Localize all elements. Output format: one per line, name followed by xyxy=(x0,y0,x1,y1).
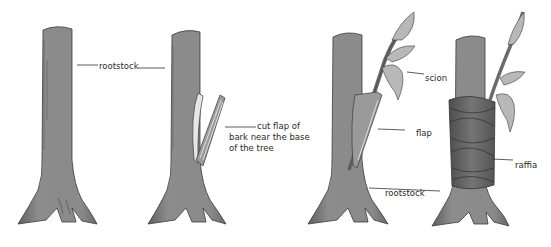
tree-4-raffia-wrapped xyxy=(432,12,525,226)
label-rootstock-bottom: rootstock xyxy=(385,188,425,199)
label-cut-flap: cut flap of bark near the base of the tr… xyxy=(257,121,357,154)
label-scion: scion xyxy=(425,73,447,84)
leader-scion xyxy=(407,72,424,74)
label-rootstock-top: rootstock xyxy=(99,61,139,72)
label-cut-flap-line2: bark near the base xyxy=(229,132,357,143)
label-cut-flap-line1: cut flap of xyxy=(257,121,357,132)
leader-raffia xyxy=(492,159,513,160)
label-raffia: raffia xyxy=(515,160,537,171)
label-flap: flap xyxy=(416,128,432,139)
label-cut-flap-line3: of the tree xyxy=(229,143,357,154)
tree-1-rootstock xyxy=(18,27,97,224)
leader-flap xyxy=(378,129,405,130)
tree-2-cut-flap xyxy=(148,31,226,224)
